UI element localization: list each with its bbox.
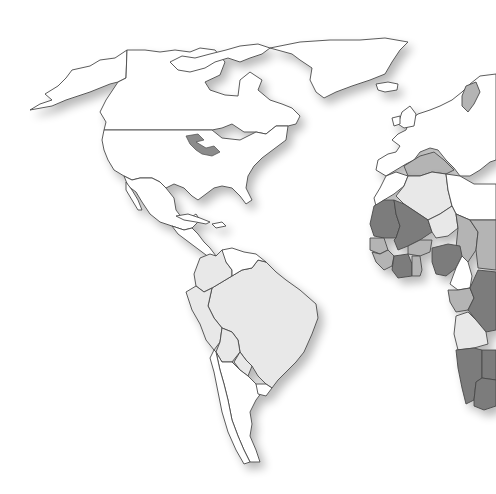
africa	[370, 172, 496, 410]
region-cote-divoire	[392, 254, 412, 278]
region-south-africa	[474, 378, 496, 410]
map-canvas	[0, 0, 496, 494]
region-guinea	[372, 250, 394, 270]
region-botswana	[482, 350, 496, 380]
region-iceland	[376, 82, 398, 92]
north-america	[30, 38, 408, 258]
region-hispaniola	[212, 222, 226, 228]
world-choropleth-map	[0, 0, 496, 494]
region-central-america	[172, 226, 216, 258]
region-uk	[398, 106, 416, 128]
south-america	[186, 248, 318, 464]
region-ireland	[392, 116, 400, 126]
region-ghana	[412, 256, 422, 276]
